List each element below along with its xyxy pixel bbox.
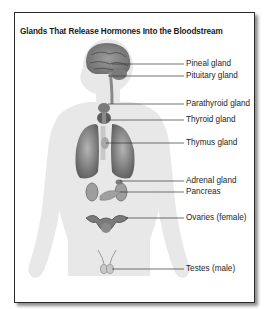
label-thymus: Thymus gland [186, 138, 237, 147]
body-illustration [0, 0, 265, 309]
label-thyroid: Thyroid gland [186, 115, 236, 124]
label-ovaries: Ovaries (female) [186, 213, 247, 222]
label-pineal: Pineal gland [186, 59, 231, 68]
label-adrenal: Adrenal gland [186, 176, 237, 185]
label-testes: Testes (male) [186, 264, 235, 273]
label-pituitary: Pituitary gland [186, 71, 238, 80]
label-pancreas: Pancreas [186, 187, 221, 196]
label-parathyroid: Parathyroid gland [186, 99, 250, 108]
